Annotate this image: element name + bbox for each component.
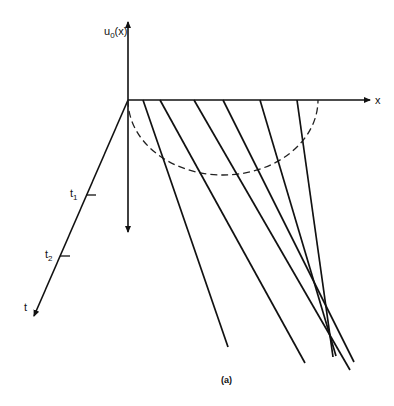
characteristic-line — [260, 100, 336, 356]
tick-label-t1: t1 — [70, 188, 78, 202]
diagram-canvas — [0, 0, 394, 406]
figure-caption: (a) — [221, 376, 232, 385]
tick-label-t2: t2 — [45, 249, 53, 263]
t-axis — [34, 100, 128, 316]
characteristic-line — [160, 100, 305, 363]
x-axis-label: x — [375, 95, 381, 106]
u-axis-label: u0(x) — [104, 26, 127, 40]
t-axis-label: t — [24, 302, 27, 313]
characteristic-line — [223, 100, 354, 362]
characteristic-line — [297, 100, 333, 357]
characteristic-lines — [143, 100, 354, 370]
